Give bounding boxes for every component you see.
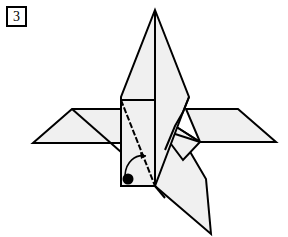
reference-dot-icon <box>123 174 134 185</box>
right-wing <box>186 109 276 142</box>
diagram-canvas: 3 <box>0 0 288 237</box>
origami-figure <box>0 0 288 237</box>
